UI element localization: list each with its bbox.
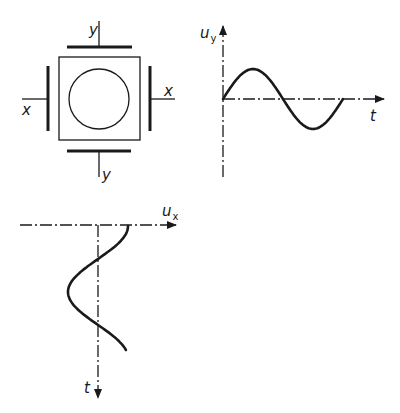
plate-top-label: y [88, 21, 99, 39]
graph-uy-y-label-sub: y [211, 33, 217, 44]
graph-ux-t-label: t [84, 379, 91, 397]
plate-bottom: y [67, 151, 131, 184]
graph-uy-y-label: uy [200, 24, 217, 44]
deflection-system: y y x x [21, 21, 175, 184]
plate-right-label: x [163, 82, 173, 100]
plate-bottom-label: y [101, 166, 112, 184]
graph-uy-x-label: t [370, 107, 377, 125]
graph-uy: uy t [200, 24, 384, 177]
plate-top: y [67, 21, 132, 47]
graph-ux-x-label-main: u [162, 202, 172, 220]
graph-ux: ux t [20, 202, 179, 398]
screen-circle [69, 69, 129, 129]
graph-ux-x-label: ux [162, 202, 179, 222]
diagram-canvas: y y x x uy t [0, 0, 400, 413]
plate-left-label: x [21, 101, 31, 119]
graph-uy-y-label-main: u [200, 24, 210, 42]
graph-ux-x-label-sub: x [173, 211, 179, 222]
plate-right: x [150, 66, 175, 131]
plate-left: x [21, 66, 48, 131]
